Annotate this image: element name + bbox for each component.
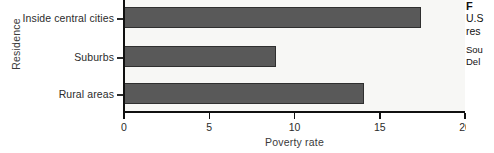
x-tick-mark <box>123 113 125 119</box>
side-note-heading: F <box>466 0 473 12</box>
x-tick-label: 10 <box>289 121 301 133</box>
x-tick-label: 0 <box>121 121 127 133</box>
poverty-rate-bar-chart: Residence Inside central cities Suburbs … <box>0 0 494 153</box>
category-label-column: Inside central cities Suburbs Rural area… <box>0 0 114 120</box>
side-note-line-1: U.S <box>466 12 484 25</box>
category-label-suburbs: Suburbs <box>74 51 114 63</box>
x-axis-title: Poverty rate <box>124 136 465 148</box>
category-label-inside-central-cities: Inside central cities <box>23 12 114 24</box>
y-axis-line <box>123 0 125 113</box>
side-note-body: U.S res <box>466 12 484 37</box>
x-tick-label: 15 <box>374 121 386 133</box>
side-note-source-line-1: Sou <box>466 44 483 56</box>
side-note-line-2: res <box>466 25 484 38</box>
bar-rural-areas <box>124 83 364 104</box>
bar-suburbs <box>124 46 276 67</box>
x-tick-mark <box>294 113 296 119</box>
side-note-source-line-2: Del <box>466 56 483 68</box>
category-label-rural-areas: Rural areas <box>59 88 114 100</box>
side-note-block: F U.S res Sou Del <box>466 0 494 153</box>
x-tick-mark <box>209 113 211 119</box>
side-note-source: Sou Del <box>466 44 483 67</box>
x-tick-mark <box>379 113 381 119</box>
x-tick-label: 5 <box>206 121 212 133</box>
bar-inside-central-cities <box>124 7 421 28</box>
plot-area <box>124 0 465 112</box>
